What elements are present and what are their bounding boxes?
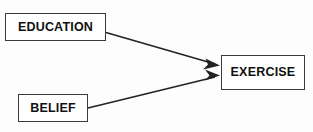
edge-education-to-exercise [106, 33, 220, 70]
node-education-label: EDUCATION [18, 21, 93, 34]
edge-belief-to-exercise [88, 70, 220, 109]
node-exercise[interactable]: EXERCISE [221, 55, 305, 90]
node-belief[interactable]: BELIEF [18, 94, 88, 122]
diagram-canvas: EDUCATION BELIEF EXERCISE [0, 0, 313, 132]
node-education[interactable]: EDUCATION [5, 13, 106, 41]
node-exercise-label: EXERCISE [231, 66, 296, 79]
node-belief-label: BELIEF [30, 102, 76, 115]
